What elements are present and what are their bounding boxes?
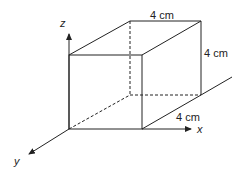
- cube-diagram: 4 cm 4 cm 4 cm x y z: [0, 0, 246, 176]
- y-axis: [29, 129, 69, 154]
- z-axis-label: z: [59, 17, 66, 29]
- right-edge-label: 4 cm: [204, 47, 228, 59]
- front-face: [69, 55, 142, 129]
- x-axis-label: x: [196, 123, 203, 135]
- top-edge-label: 4 cm: [150, 9, 174, 21]
- y-axis-label: y: [13, 155, 21, 167]
- depth-edge-label: 4 cm: [176, 111, 200, 123]
